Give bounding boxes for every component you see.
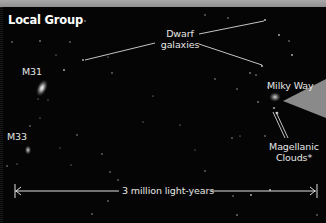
dwarf-label-line1: Dwarf bbox=[158, 28, 202, 39]
local-group-diagram: Local Group Dwarf galaxies M31 M33 Milky… bbox=[0, 0, 326, 223]
m33-galaxy bbox=[25, 145, 32, 155]
magellanic-label-line2: Clouds* bbox=[264, 152, 324, 163]
milky-way-galaxy bbox=[269, 92, 281, 102]
magellanic-leader-lines bbox=[273, 112, 288, 138]
scale-bar-label: 3 million light-years bbox=[122, 185, 214, 196]
dwarf-label-line2: galaxies bbox=[158, 39, 202, 50]
milky-way-label: Milky Way bbox=[267, 80, 314, 91]
magellanic-clouds-label: Magellanic Clouds* bbox=[264, 141, 324, 163]
m31-galaxy bbox=[34, 78, 51, 99]
dwarf-galaxies-label: Dwarf galaxies bbox=[158, 28, 202, 50]
magellanic-label-line1: Magellanic bbox=[264, 141, 324, 152]
diagram-title: Local Group bbox=[8, 13, 83, 27]
m31-label: M31 bbox=[22, 66, 42, 77]
m33-label: M33 bbox=[7, 131, 27, 142]
